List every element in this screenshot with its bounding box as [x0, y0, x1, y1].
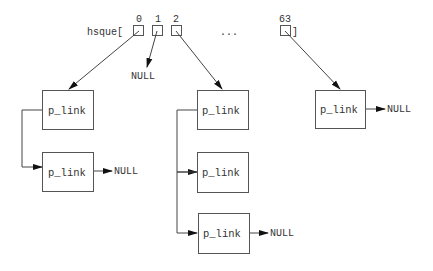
array-slot-63 [281, 26, 291, 36]
index-label-63: 63 [279, 14, 291, 25]
left-node-1-label: p_link [48, 105, 86, 117]
index-label-1: 1 [155, 14, 161, 25]
null-label-middle: NULL [270, 228, 294, 239]
array-name-label: hsque[ [87, 27, 123, 38]
pointer-slot2-to-node [176, 31, 222, 89]
left-link-1-to-2 [22, 110, 42, 167]
array-close-bracket: ] [292, 27, 298, 38]
ellipsis-label: ... [220, 27, 238, 38]
index-label-0: 0 [136, 14, 142, 25]
middle-node-1-label: p_link [202, 105, 240, 117]
pointer-slot63-to-node [285, 31, 340, 89]
right-node-1-label: p_link [320, 104, 358, 116]
hash-bucket-diagram: hsque[ 0 1 2 63 ... ] NULL p_link p_link… [0, 0, 433, 271]
null-label-right: NULL [387, 104, 411, 115]
array-slot-1 [153, 26, 163, 36]
left-node-2-label: p_link [48, 167, 86, 179]
middle-link-2-to-3 [177, 172, 197, 233]
pointer-slot0-to-node [69, 31, 139, 89]
array-slot-2 [172, 26, 182, 36]
null-label-left: NULL [114, 166, 138, 177]
index-label-2: 2 [173, 14, 179, 25]
pointer-slot1-to-null [147, 31, 157, 67]
middle-node-3-label: p_link [203, 228, 241, 240]
middle-node-2-label: p_link [202, 167, 240, 179]
middle-link-1-to-2 [177, 110, 197, 172]
null-label-slot1: NULL [131, 71, 155, 82]
